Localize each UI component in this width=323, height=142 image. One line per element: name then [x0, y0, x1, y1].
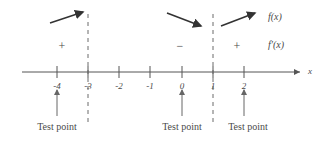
test-point-arrows [57, 90, 244, 116]
test-point-label-2: Test point [162, 122, 202, 132]
sign-label-interval-2: − [177, 40, 184, 52]
derivative-row-label: f′(x) [268, 40, 284, 50]
sign-label-interval-3: + [234, 40, 241, 52]
increasing-arrow-right [221, 13, 255, 26]
tick-label-neg2: -2 [115, 82, 123, 91]
test-point-label-3: Test point [228, 122, 268, 132]
tick-label-neg1: -1 [146, 82, 154, 91]
sign-chart-figure: -4 -3 -2 -1 0 1 2 x + − + f(x) f′(x) Tes… [0, 0, 323, 142]
tick-label-neg4: -4 [53, 82, 61, 91]
decreasing-arrow-middle [167, 13, 201, 26]
tick-label-neg3: -3 [84, 82, 92, 91]
slope-arrows [50, 12, 255, 26]
axis-variable-label: x [308, 67, 312, 76]
test-point-label-1: Test point [37, 122, 77, 132]
sign-label-interval-1: + [59, 40, 66, 52]
tick-label-1: 1 [211, 82, 216, 91]
tick-label-0: 0 [180, 82, 185, 91]
tick-label-2: 2 [242, 82, 247, 91]
function-row-label: f(x) [268, 12, 282, 22]
increasing-arrow-left [50, 12, 83, 23]
